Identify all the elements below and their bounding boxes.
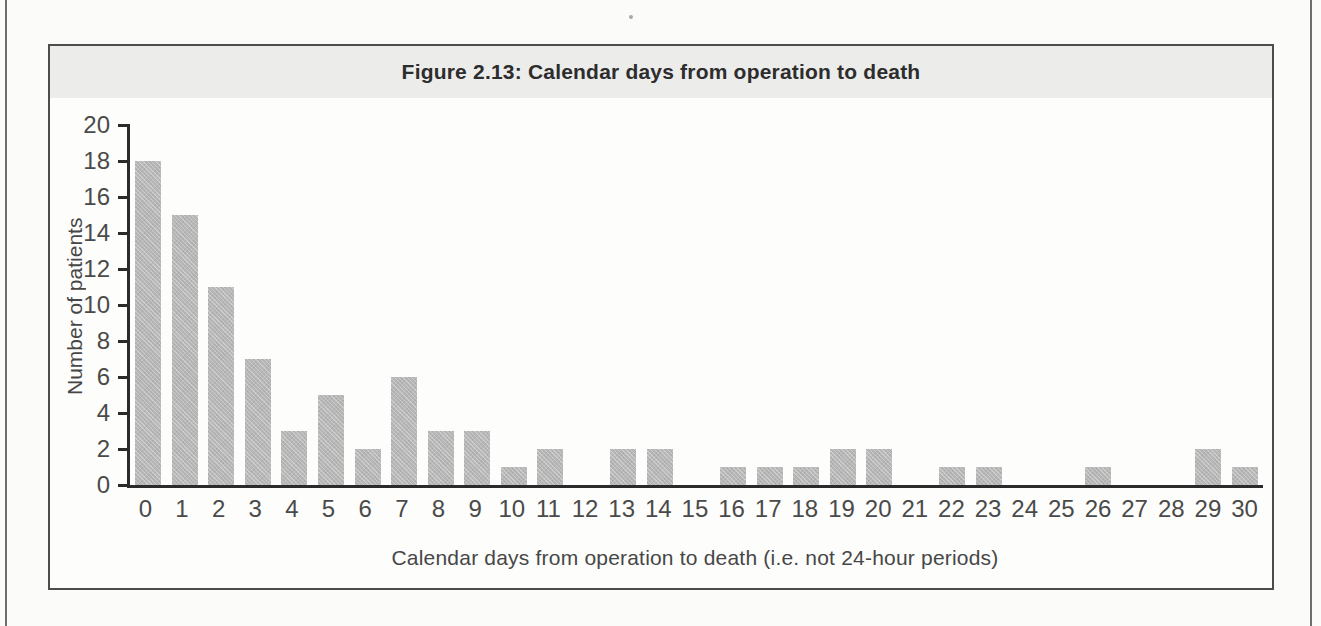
x-tick-label-22: 22 [933,494,970,524]
x-tick-label-30: 30 [1226,494,1263,524]
bar-cell-day-7 [386,125,423,485]
y-tick-label-12: 12 [58,256,110,282]
bar-cell-day-23 [971,125,1008,485]
y-tick-label-8: 8 [58,328,110,354]
bar-day-8 [428,431,454,485]
x-axis-title: Calendar days from operation to death (i… [127,546,1263,570]
bar-cell-day-9 [459,125,496,485]
bar-cell-day-30 [1226,125,1263,485]
x-tick-label-14: 14 [640,494,677,524]
scan-speck [629,15,633,19]
bar-cell-day-21 [897,125,934,485]
bar-cell-day-13 [605,125,642,485]
y-tick-label-6: 6 [58,364,110,390]
bar-cell-day-29 [1190,125,1227,485]
y-tick-0 [118,484,130,487]
bar-day-29 [1195,449,1221,485]
bar-day-17 [757,467,783,485]
bar-cell-day-16 [715,125,752,485]
figure-box: Figure 2.13: Calendar days from operatio… [48,44,1274,590]
y-tick-20 [118,124,130,127]
bar-day-2 [208,287,234,485]
bar-cell-day-4 [276,125,313,485]
y-tick-label-10: 10 [58,292,110,318]
y-tick-label-20: 20 [58,112,110,138]
bar-cell-day-14 [642,125,679,485]
bar-day-10 [501,467,527,485]
x-tick-label-5: 5 [310,494,347,524]
x-tick-label-25: 25 [1043,494,1080,524]
plot-area: 02468101214161820 [127,125,1263,488]
x-tick-label-0: 0 [127,494,164,524]
bar-day-4 [281,431,307,485]
y-tick-label-18: 18 [58,148,110,174]
bar-cell-day-17 [751,125,788,485]
bar-day-20 [866,449,892,485]
bar-cell-day-11 [532,125,569,485]
bar-day-0 [135,161,161,485]
x-tick-label-9: 9 [457,494,494,524]
bar-day-16 [720,467,746,485]
bar-cell-day-2 [203,125,240,485]
y-tick-6 [118,376,130,379]
bar-cell-day-0 [130,125,167,485]
x-tick-label-16: 16 [713,494,750,524]
x-tick-label-26: 26 [1080,494,1117,524]
bar-cell-day-18 [788,125,825,485]
bar-day-9 [464,431,490,485]
bar-day-13 [610,449,636,485]
figure-title: Figure 2.13: Calendar days from operatio… [50,46,1272,98]
bar-cell-day-28 [1153,125,1190,485]
x-tick-label-18: 18 [787,494,824,524]
x-axis-labels: 0123456789101112131415161718192021222324… [127,494,1263,524]
x-tick-label-1: 1 [164,494,201,524]
x-tick-label-7: 7 [383,494,420,524]
y-tick-label-0: 0 [58,472,110,498]
x-tick-label-4: 4 [274,494,311,524]
x-tick-label-2: 2 [200,494,237,524]
bar-cell-day-12 [569,125,606,485]
x-tick-label-27: 27 [1116,494,1153,524]
bar-day-30 [1232,467,1258,485]
bar-cell-day-19 [824,125,861,485]
bar-cell-day-10 [495,125,532,485]
x-tick-label-8: 8 [420,494,457,524]
x-tick-label-20: 20 [860,494,897,524]
y-tick-label-14: 14 [58,220,110,246]
y-tick-label-2: 2 [58,436,110,462]
y-tick-4 [118,412,130,415]
bar-cell-day-1 [167,125,204,485]
y-tick-label-4: 4 [58,400,110,426]
x-tick-label-21: 21 [896,494,933,524]
bar-day-18 [793,467,819,485]
x-tick-label-17: 17 [750,494,787,524]
x-tick-label-15: 15 [677,494,714,524]
bar-day-14 [647,449,673,485]
bar-cell-day-24 [1007,125,1044,485]
bars-container [130,125,1263,485]
bar-day-1 [172,215,198,485]
x-tick-label-19: 19 [823,494,860,524]
bar-cell-day-22 [934,125,971,485]
page-right-rule [1310,0,1312,626]
bar-cell-day-15 [678,125,715,485]
x-tick-label-10: 10 [493,494,530,524]
bar-day-6 [355,449,381,485]
x-tick-label-13: 13 [603,494,640,524]
x-tick-label-11: 11 [530,494,567,524]
y-tick-12 [118,268,130,271]
bar-day-26 [1085,467,1111,485]
page-left-rule [5,0,7,626]
y-tick-2 [118,448,130,451]
bar-cell-day-6 [349,125,386,485]
bar-day-7 [391,377,417,485]
y-tick-10 [118,304,130,307]
bar-day-11 [537,449,563,485]
bar-cell-day-20 [861,125,898,485]
bar-day-22 [939,467,965,485]
y-tick-18 [118,160,130,163]
x-tick-label-23: 23 [970,494,1007,524]
y-tick-label-16: 16 [58,184,110,210]
bar-cell-day-5 [313,125,350,485]
y-tick-8 [118,340,130,343]
